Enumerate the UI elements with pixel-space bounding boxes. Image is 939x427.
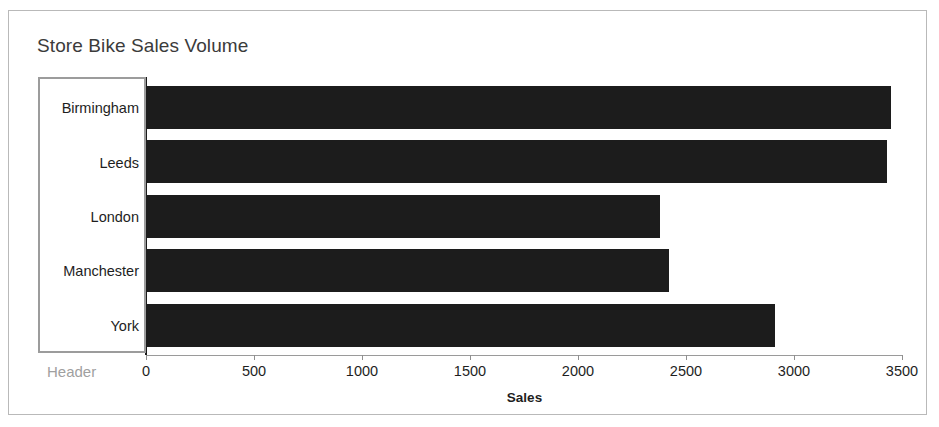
value-axis-line [146,355,903,356]
tick-label: 2500 [670,363,702,379]
bar[interactable] [146,304,775,347]
bar-row[interactable] [146,81,903,135]
bar-row[interactable] [146,135,903,189]
category-label-manchester[interactable]: Manchester [38,244,142,298]
category-label-leeds[interactable]: Leeds [38,135,142,189]
category-axis-labels[interactable]: BirminghamLeedsLondonManchesterYork [38,81,142,353]
tick-label: 1500 [454,363,486,379]
tick-mark [686,355,687,360]
tick-mark [470,355,471,360]
tick-label: 0 [142,363,150,379]
bar-series[interactable] [146,81,903,353]
category-label-birmingham[interactable]: Birmingham [38,81,142,135]
category-label-london[interactable]: London [38,190,142,244]
tick-label: 500 [242,363,266,379]
tick-label: 2000 [562,363,594,379]
category-header-label[interactable]: Header [47,363,96,380]
tick-mark [578,355,579,360]
tick-mark [902,355,903,360]
bar[interactable] [146,249,669,292]
tick-label: 1000 [346,363,378,379]
value-axis-title[interactable]: Sales [146,390,903,405]
tick-label: 3500 [886,363,918,379]
bar-row[interactable] [146,190,903,244]
bar[interactable] [146,86,891,129]
tick-mark [794,355,795,360]
bar-row[interactable] [146,299,903,353]
bar-row[interactable] [146,244,903,298]
bar[interactable] [146,140,887,183]
tick-label: 3000 [778,363,810,379]
chart-screenshot: Store Bike Sales Volume BirminghamLeedsL… [0,0,939,427]
category-label-york[interactable]: York [38,299,142,353]
chart-title[interactable]: Store Bike Sales Volume [37,35,248,57]
bar[interactable] [146,195,660,238]
tick-mark [362,355,363,360]
tick-mark [146,355,147,360]
tick-mark [254,355,255,360]
chart-container[interactable]: Store Bike Sales Volume BirminghamLeedsL… [8,10,927,415]
